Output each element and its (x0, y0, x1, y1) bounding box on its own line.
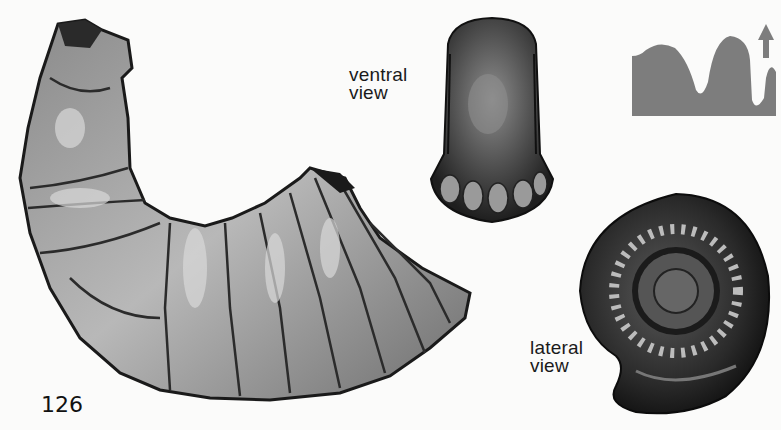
book-page: ventral view (0, 0, 781, 430)
lateral-label-line2: view (530, 357, 583, 375)
page-number: 126 (41, 392, 83, 417)
up-arrow-icon (758, 24, 774, 58)
cross-section-profile-icon (630, 20, 778, 118)
ventral-view-label: ventral view (349, 66, 407, 102)
lateral-view-label: lateral view (530, 339, 583, 375)
ventral-label-line2: view (349, 84, 407, 102)
ventral-view-illustration (428, 14, 556, 226)
lateral-view-illustration (576, 186, 781, 420)
curved-ammonite-illustration (10, 18, 480, 403)
